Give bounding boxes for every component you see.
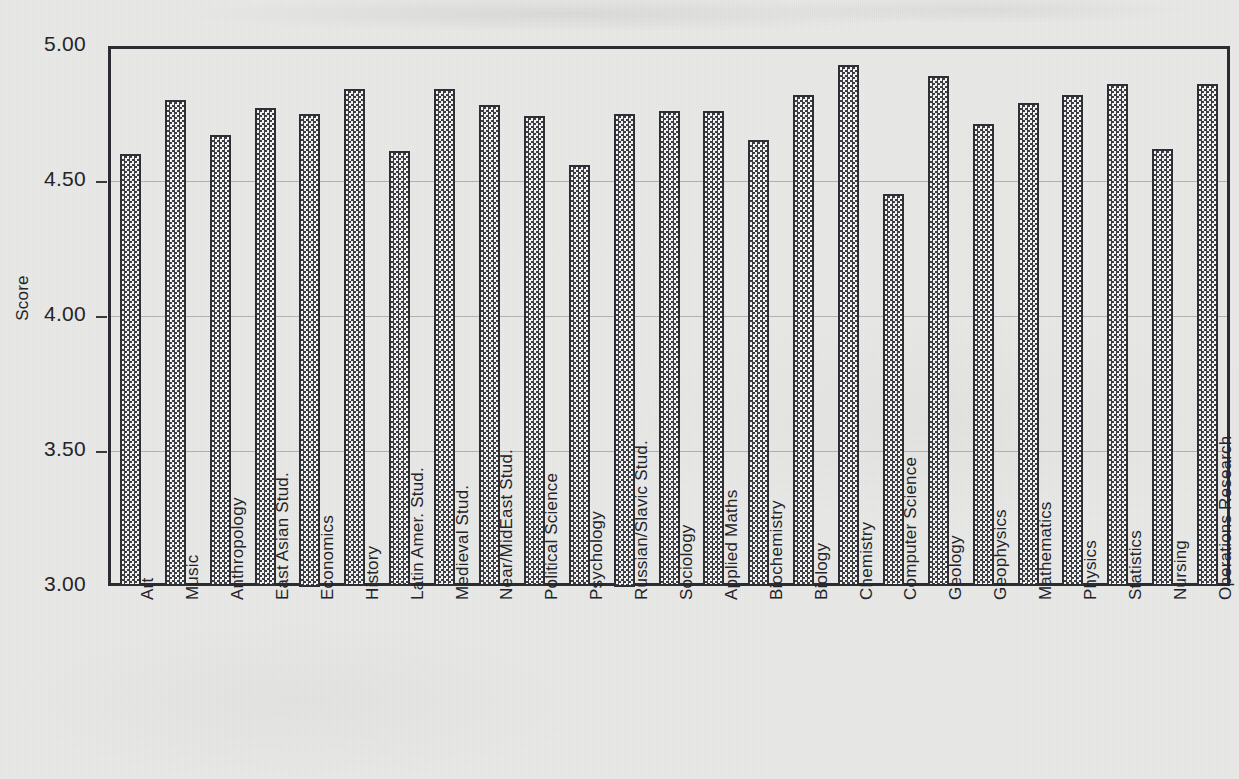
x-axis-category-label: Geology <box>946 535 966 600</box>
x-axis-category-label: Music <box>183 555 203 600</box>
bar <box>928 76 949 586</box>
x-axis-category-label: Computer Science <box>901 457 921 600</box>
x-axis-category-label: Political Science <box>542 473 562 600</box>
x-axis-category-label: Physics <box>1081 540 1101 600</box>
x-axis-category-label: Operations Research <box>1216 436 1236 600</box>
y-axis-tick-label: 4.50 <box>10 167 86 191</box>
chart-page: Score 5.004.504.003.503.00 ArtMusicAnthr… <box>0 0 1239 779</box>
bar <box>838 65 859 586</box>
y-axis-tick-mark <box>96 181 107 183</box>
bar <box>344 89 365 586</box>
y-axis-tick-label: 5.00 <box>10 32 86 56</box>
bar <box>299 114 320 587</box>
bar <box>1062 95 1083 586</box>
x-axis-category-label: East Asian Stud. <box>273 472 293 600</box>
bar <box>793 95 814 586</box>
bar <box>659 111 680 586</box>
y-axis-title: Score <box>13 253 33 343</box>
y-axis-tick-label: 4.00 <box>10 302 86 326</box>
x-axis-category-label: Psychology <box>587 511 607 600</box>
bar <box>748 140 769 586</box>
y-axis-tick-label: 3.50 <box>10 437 86 461</box>
bar <box>1107 84 1128 586</box>
x-axis-category-label: Art <box>138 578 158 600</box>
x-axis-category-label: Mathematics <box>1036 501 1056 600</box>
x-axis-category-label: Economics <box>318 515 338 600</box>
x-axis-category-label: History <box>363 546 383 600</box>
x-axis-category-label: Applied Maths <box>722 490 742 600</box>
x-axis-category-label: Russian/Slavic Stud. <box>632 440 652 600</box>
x-axis-category-label: Latin Amer. Stud. <box>408 467 428 600</box>
x-axis-category-label: Nursing <box>1171 540 1191 600</box>
x-axis-category-label: Near/MidEast Stud. <box>497 449 517 600</box>
y-axis-tick-label: 3.00 <box>10 572 86 596</box>
x-axis-category-label: Biochemistry <box>767 500 787 600</box>
x-axis-category-label: Sociology <box>677 524 697 600</box>
bar <box>389 151 410 586</box>
x-axis-category-label: Biology <box>812 543 832 600</box>
x-axis-category-label: Medieval Stud. <box>453 485 473 600</box>
y-axis-tick-mark <box>96 451 107 453</box>
bar <box>1152 149 1173 586</box>
bar <box>120 154 141 586</box>
x-axis-category-label: Geophysics <box>991 509 1011 600</box>
bar <box>165 100 186 586</box>
bar <box>1197 84 1218 586</box>
x-axis-category-label: Statistics <box>1126 530 1146 600</box>
bar <box>703 111 724 586</box>
y-axis-tick-mark <box>96 316 107 318</box>
x-axis-category-label: Anthropology <box>228 497 248 600</box>
x-axis-category-label: Chemistry <box>857 522 877 600</box>
bar <box>434 89 455 586</box>
